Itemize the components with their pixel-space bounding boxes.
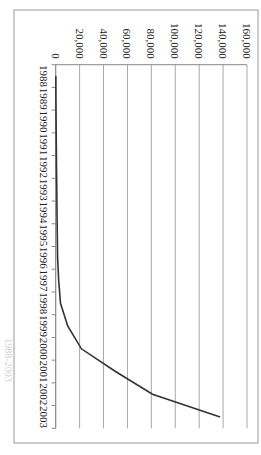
- x-tick-label: 1991: [38, 133, 50, 155]
- x-tick-label: 1998: [38, 292, 50, 315]
- x-tick-label: 2002: [38, 383, 50, 405]
- chart-title: 1988-2003: [3, 338, 14, 381]
- y-tick-label: 20,000: [74, 28, 86, 59]
- x-tick-label: 1992: [38, 156, 50, 178]
- y-tick-label: 60,000: [121, 28, 133, 59]
- y-tick-label: 0: [50, 53, 62, 59]
- x-tick-label: 1988: [38, 65, 50, 88]
- x-tick-label: 1994: [38, 201, 50, 224]
- x-tick-label: 2000: [38, 338, 50, 361]
- y-tick-label: 100,000: [169, 23, 181, 59]
- x-tick-label: 1993: [38, 179, 50, 202]
- x-tick-label: 1997: [38, 270, 50, 293]
- line-chart: 020,00040,00060,00080,000100,000120,0001…: [0, 0, 261, 455]
- x-tick-label: 1990: [38, 111, 50, 134]
- x-tick-label: 1995: [38, 224, 50, 247]
- chart-border: [14, 10, 258, 443]
- x-tick-label: 2001: [38, 360, 50, 382]
- x-tick-label: 1989: [38, 88, 50, 111]
- chart-container: 020,00040,00060,00080,000100,000120,0001…: [0, 0, 261, 455]
- y-tick-label: 140,000: [217, 23, 229, 59]
- y-tick-label: 120,000: [193, 23, 205, 59]
- x-tick-label: 1999: [38, 315, 50, 338]
- y-tick-label: 40,000: [98, 28, 110, 59]
- x-tick-label: 2003: [38, 406, 50, 429]
- y-tick-label: 160,000: [241, 23, 253, 59]
- y-tick-label: 80,000: [145, 28, 157, 59]
- x-tick-label: 1996: [38, 247, 50, 270]
